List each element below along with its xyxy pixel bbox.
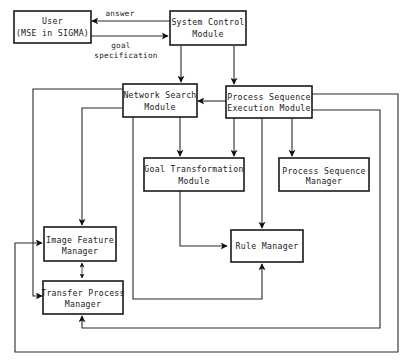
edge-gt-to-rm — [180, 191, 227, 246]
edge-label-goal: goal — [111, 41, 131, 50]
node-label: Execution Module — [227, 103, 311, 113]
node-label: (MSE in SIGMA) — [16, 28, 89, 38]
node-label: Rule Manager — [236, 241, 299, 251]
node-label: Manager — [62, 246, 99, 256]
node-label: Network Search — [123, 90, 196, 100]
node-image-feature-manager: Image Feature Manager — [44, 227, 116, 261]
node-label: Process Sequence — [227, 92, 311, 102]
edge-label-specification: specification — [94, 51, 157, 60]
edge-ns-to-rm — [133, 117, 262, 299]
node-label: Module — [144, 102, 175, 112]
system-architecture-diagram: answer goal specification User (MSE in S… — [0, 0, 412, 364]
node-label: Module — [192, 29, 223, 39]
node-label: System Control — [171, 17, 244, 27]
node-process-sequence-execution-module: Process Sequence Execution Module — [226, 86, 312, 118]
edge-label-answer: answer — [105, 9, 134, 18]
edge-ns-to-tpm — [33, 89, 123, 296]
node-user: User (MSE in SIGMA) — [14, 11, 91, 43]
node-label: Transfer Process — [41, 288, 125, 298]
node-label: User — [42, 16, 63, 26]
node-goal-transformation-module: Goal Transformation Module — [144, 158, 244, 191]
node-label: Module — [178, 176, 209, 186]
node-rule-manager: Rule Manager — [231, 230, 303, 262]
node-transfer-process-manager: Transfer Process Manager — [41, 281, 125, 314]
edge-ns-to-ifm — [82, 108, 123, 225]
edge-pse-to-tpm — [82, 110, 380, 328]
node-system-control-module: System Control Module — [170, 11, 246, 45]
node-label: Process Sequence — [282, 166, 366, 176]
node-label: Image Feature — [46, 235, 114, 245]
node-network-search-module: Network Search Module — [123, 84, 197, 117]
node-label: Manager — [65, 299, 102, 309]
node-label: Manager — [306, 176, 343, 186]
node-process-sequence-manager: Process Sequence Manager — [279, 158, 369, 191]
node-label: Goal Transformation — [144, 164, 243, 174]
